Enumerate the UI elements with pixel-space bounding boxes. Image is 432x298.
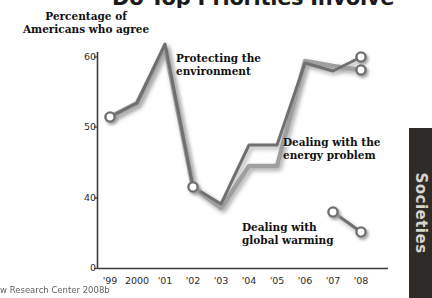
annotation-warming-label: Dealing with global warming xyxy=(242,221,362,246)
annotation-percentage-label: Percentage of Americans who agree xyxy=(6,10,166,35)
marker-environment-2002 xyxy=(188,182,197,191)
marker-environment-2008 xyxy=(356,52,365,61)
y-tick-label-0: 0 xyxy=(90,262,96,273)
x-tick-label-2006: '06 xyxy=(298,275,313,286)
annotation-energy-label: Dealing with the energy problem xyxy=(283,136,428,161)
x-tick-label-2001: '01 xyxy=(158,275,173,286)
marker-energy-2008 xyxy=(356,65,365,74)
x-tick-label-2002: '02 xyxy=(186,275,201,286)
marker-warming-2007 xyxy=(328,207,337,216)
x-tick-label-2008: '08 xyxy=(354,275,369,286)
x-tick-label-2000: 2000 xyxy=(125,275,149,286)
x-tick-label-2003: '03 xyxy=(214,275,229,286)
source-credit: Pew Research Center 2008b xyxy=(0,285,110,295)
annotation-environment-label: Protecting the environment xyxy=(176,52,306,77)
y-tick-label-50: 50 xyxy=(84,121,96,132)
x-tick-label-2005: '05 xyxy=(270,275,285,286)
marker-environment-1999 xyxy=(105,112,114,121)
y-tick-label-60: 60 xyxy=(84,51,96,62)
chart-figure: Do Top Priorities Involve xyxy=(0,0,432,298)
edge-tab-label: Societies xyxy=(412,172,430,253)
x-tick-label-2004: '04 xyxy=(242,275,257,286)
y-tick-label-40: 40 xyxy=(84,192,96,203)
x-tick-label-2007: '07 xyxy=(326,275,341,286)
edge-tab-strip: Societies xyxy=(409,128,432,298)
y-axis-tick-labels: 60 50 40 0 xyxy=(60,0,96,298)
